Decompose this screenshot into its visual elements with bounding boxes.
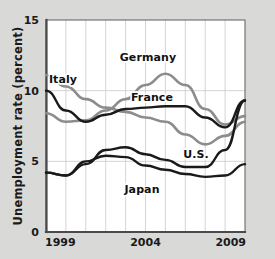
y-tick-5: 5 <box>31 155 39 168</box>
series-label-germany: Germany <box>120 51 177 64</box>
y-tick-15: 15 <box>24 14 39 27</box>
chart-canvas: 051015 199920042009 ItalyItalyGermanyGer… <box>0 0 275 259</box>
series-label-italy: Italy <box>49 73 77 86</box>
series-label-france: France <box>131 91 173 104</box>
x-tick-2004: 2004 <box>130 236 161 249</box>
y-axis-title: Unemployment rate (percent) <box>11 27 25 226</box>
x-tick-labels: 199920042009 <box>45 236 246 249</box>
x-tick-1999: 1999 <box>45 236 76 249</box>
y-tick-labels: 051015 <box>24 14 40 239</box>
y-tick-0: 0 <box>31 226 39 239</box>
y-tick-10: 10 <box>24 85 40 98</box>
x-tick-2009: 2009 <box>215 236 246 249</box>
series-label-japan: Japan <box>123 183 159 196</box>
series-label-us: U.S. <box>183 148 209 161</box>
unemployment-rate-chart: 051015 199920042009 ItalyItalyGermanyGer… <box>0 0 275 259</box>
